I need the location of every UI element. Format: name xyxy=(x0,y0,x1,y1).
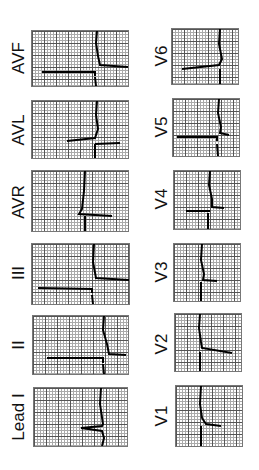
ecg-trace-iii xyxy=(32,244,129,304)
lead-label-v5: V5 xyxy=(152,107,172,147)
lead-label-i: Lead I xyxy=(9,384,29,450)
ecg-grid-v2 xyxy=(174,313,242,372)
ecg-grid-lead-i xyxy=(33,387,128,447)
ecg-trace-avl xyxy=(32,101,128,158)
lead-label-avr: AVR xyxy=(9,177,29,227)
lead-label-v4: V4 xyxy=(152,179,172,219)
ecg-trace-v5 xyxy=(173,99,239,156)
lead-label-v2: V2 xyxy=(152,324,172,364)
ecg-grid-avf xyxy=(31,30,129,87)
ecg-grid-iii xyxy=(31,243,130,305)
ecg-trace-ii xyxy=(33,316,128,374)
ecg-trace-v3 xyxy=(174,244,240,301)
ecg-grid-v6 xyxy=(171,28,239,85)
ecg-grid-avl xyxy=(31,100,129,159)
lead-label-ii: II xyxy=(9,320,29,370)
lead-label-avf: AVF xyxy=(9,33,29,83)
ecg-grid-v3 xyxy=(173,243,241,302)
lead-label-iii: III xyxy=(9,248,29,298)
ecg-trace-v2 xyxy=(175,314,241,371)
lead-label-v1: V1 xyxy=(152,396,172,436)
ecg-trace-avr xyxy=(32,171,128,231)
ecg-trace-avf xyxy=(32,31,128,86)
ecg-grid-v5 xyxy=(172,98,240,157)
ecg-trace-v1 xyxy=(176,386,242,446)
lead-label-v6: V6 xyxy=(152,36,172,76)
ecg-trace-lead-i xyxy=(34,388,127,446)
ecg-grid-v4 xyxy=(173,170,241,230)
lead-label-avl: AVL xyxy=(9,105,29,155)
lead-label-v3: V3 xyxy=(152,252,172,292)
ecg-grid-v1 xyxy=(175,385,243,447)
ecg-trace-v6 xyxy=(172,29,238,84)
ecg-trace-v4 xyxy=(174,171,240,229)
ecg-grid-ii xyxy=(32,315,129,375)
ecg-grid-avr xyxy=(31,170,129,232)
